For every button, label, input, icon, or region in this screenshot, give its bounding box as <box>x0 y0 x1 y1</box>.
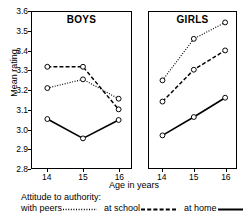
data-point-marker <box>223 95 228 100</box>
y-tick-label: 2.9 <box>16 145 28 153</box>
data-point-marker <box>45 64 50 69</box>
legend-item-label: at home <box>184 203 217 213</box>
legend-item-label: at school <box>104 203 140 213</box>
y-tick-label: 3.5 <box>16 27 28 35</box>
y-tick-label: 2.8 <box>16 165 28 173</box>
legend-item-at-school: at school <box>104 203 177 213</box>
data-point-marker <box>81 136 86 141</box>
legend-item-at-home: at home <box>184 203 243 213</box>
data-point-marker <box>223 20 228 25</box>
y-axis-tick-labels: 2.82.93.03.13.23.33.43.53.6 <box>6 0 28 170</box>
panel-girls-plot <box>149 12 236 168</box>
data-point-marker <box>160 99 165 104</box>
legend-swatch-dashed <box>141 205 177 212</box>
data-point-marker <box>191 115 196 120</box>
y-tick-label: 3.0 <box>16 126 28 134</box>
chart-figure: Mean rating 2.82.93.03.13.23.33.43.53.6 … <box>0 0 243 216</box>
data-point-marker <box>160 78 165 83</box>
data-point-marker <box>116 96 121 101</box>
legend-swatch-solid <box>218 205 243 212</box>
y-tick-label: 3.3 <box>16 66 28 74</box>
y-tick-mark <box>28 169 31 170</box>
data-point-marker <box>223 48 228 53</box>
legend-title: Attitude to authority: <box>21 192 101 202</box>
legend: with peersat schoolat home <box>21 203 237 216</box>
data-point-marker <box>191 36 196 41</box>
panel-girls: GIRLS <box>148 11 237 169</box>
x-axis-label: Age in years <box>31 180 237 190</box>
data-point-marker <box>116 118 121 123</box>
y-tick-label: 3.4 <box>16 47 28 55</box>
series-line-at-school <box>47 67 118 110</box>
data-point-marker <box>191 67 196 72</box>
y-tick-label: 3.2 <box>16 86 28 94</box>
panel-boys-plot <box>32 12 131 168</box>
data-point-marker <box>45 86 50 91</box>
data-point-marker <box>116 107 121 112</box>
data-point-marker <box>81 77 86 82</box>
data-point-marker <box>81 64 86 69</box>
legend-swatch-dotted <box>63 205 97 212</box>
y-tick-label: 3.6 <box>16 7 28 15</box>
panel-boys: BOYS <box>31 11 132 169</box>
y-tick-label: 3.1 <box>16 106 28 114</box>
data-point-marker <box>160 133 165 138</box>
legend-item-label: with peers <box>21 203 62 213</box>
legend-item-with-peers: with peers <box>21 203 97 213</box>
series-line-at-school <box>162 50 225 101</box>
data-point-marker <box>45 117 50 122</box>
